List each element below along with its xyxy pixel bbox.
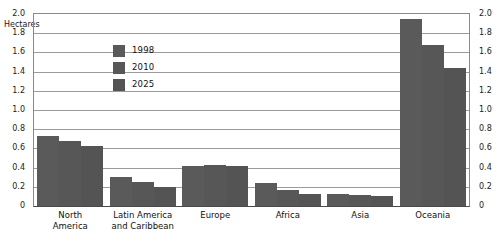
bars-layer	[34, 14, 469, 206]
x-tick-label: Latin America and Caribbean	[107, 210, 180, 231]
bar	[59, 141, 81, 206]
y-tick-label: 0.2	[479, 183, 492, 191]
y-tick-label: 1.2	[479, 87, 492, 95]
bar-group	[34, 14, 107, 206]
y-tick-label: 0.4	[479, 164, 492, 172]
legend-label: 2010	[132, 63, 154, 72]
y-tick-label: 0	[479, 202, 484, 210]
y-tick-label: 0.6	[479, 144, 492, 152]
bar	[182, 166, 204, 206]
bar	[154, 187, 176, 206]
y-axis-left: 2.01.81.61.41.21.00.80.60.40.20	[0, 0, 29, 244]
legend-swatch	[113, 45, 125, 57]
chart-legend: 199820102025	[113, 43, 154, 94]
y-tick-label: 0.4	[0, 164, 25, 172]
bar	[204, 165, 226, 206]
bar-group	[252, 14, 325, 206]
x-tick-label: North America	[34, 210, 107, 231]
bar-chart: Hectares 2.01.81.61.41.21.00.80.60.40.20…	[0, 0, 503, 244]
legend-label: 1998	[132, 46, 154, 55]
bar	[37, 136, 59, 206]
bar	[400, 19, 422, 206]
x-tick-label: Asia	[324, 210, 397, 221]
y-tick-label: 1.4	[0, 68, 25, 76]
y-tick-label: 1.2	[0, 87, 25, 95]
y-tick-label: 0.2	[0, 183, 25, 191]
x-tick-label: Europe	[179, 210, 252, 221]
bar	[327, 194, 349, 206]
legend-label: 2025	[132, 80, 154, 89]
y-tick-label: 0.8	[479, 125, 492, 133]
y-tick-label: 1.0	[0, 106, 25, 114]
y-tick-label: 1.0	[479, 106, 492, 114]
legend-swatch	[113, 62, 125, 74]
y-tick-label: 1.8	[479, 29, 492, 37]
bar	[299, 194, 321, 206]
y-tick-label: 1.4	[479, 68, 492, 76]
y-tick-label: 0	[0, 202, 25, 210]
legend-item: 2025	[113, 77, 154, 92]
legend-item: 2010	[113, 60, 154, 75]
y-axis-right: 2.01.81.61.41.21.00.80.60.40.20	[474, 0, 503, 244]
bar	[110, 177, 132, 206]
bar	[277, 190, 299, 206]
y-tick-label: 2.0	[0, 10, 25, 18]
y-tick-label: 1.6	[479, 48, 492, 56]
bar	[371, 196, 393, 206]
x-tick-label: Oceania	[397, 210, 470, 221]
legend-item: 1998	[113, 43, 154, 58]
bar	[226, 166, 248, 206]
y-tick-label: 0.8	[0, 125, 25, 133]
y-tick-label: 1.8	[0, 29, 25, 37]
bar	[81, 146, 103, 206]
legend-swatch	[113, 79, 125, 91]
bar	[349, 195, 371, 206]
bar-group	[324, 14, 397, 206]
y-tick-label: 2.0	[479, 10, 492, 18]
bar	[422, 45, 444, 206]
bar	[132, 182, 154, 206]
y-tick-label: 0.6	[0, 144, 25, 152]
bar	[444, 68, 466, 206]
bar-group	[179, 14, 252, 206]
x-tick-label: Africa	[252, 210, 325, 221]
y-tick-label: 1.6	[0, 48, 25, 56]
bar-group	[397, 14, 470, 206]
bar	[255, 183, 277, 206]
